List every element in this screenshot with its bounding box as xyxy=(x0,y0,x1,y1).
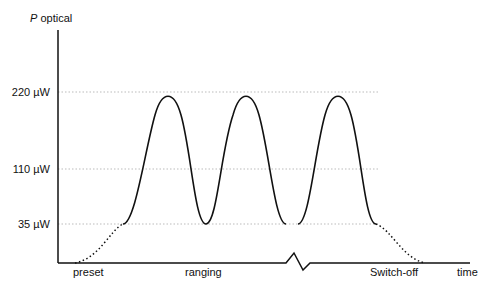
preset-ramp xyxy=(75,224,123,263)
y-axis-label: P optical xyxy=(30,12,72,24)
y-tick-35: 35 µW xyxy=(0,218,50,230)
diagram-canvas xyxy=(0,0,493,291)
phase-ranging: ranging xyxy=(185,266,222,278)
phase-preset: preset xyxy=(73,266,104,278)
y-tick-110: 110 µW xyxy=(0,163,50,175)
ranging-pulse-3 xyxy=(298,96,376,224)
optical-power-diagram: P optical 220 µW 110 µW 35 µW preset ran… xyxy=(0,0,493,291)
phase-switch-off: Switch-off xyxy=(370,266,418,278)
y-tick-220: 220 µW xyxy=(0,86,50,98)
x-axis-label: time xyxy=(457,266,478,278)
reference-gridlines xyxy=(58,92,378,224)
ranging-pulses-1-2 xyxy=(123,96,286,224)
switch-off-ramp xyxy=(376,224,425,263)
